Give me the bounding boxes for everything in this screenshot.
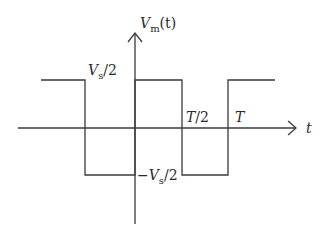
square-wave-diagram: Vm(t) t Vs/2 −Vs/2 T/2 T (0, 0, 332, 231)
y-axis-label: Vm(t) (140, 15, 176, 34)
x-axis (18, 121, 296, 135)
half-period-label: T/2 (186, 109, 209, 125)
low-level-label: −Vs/2 (137, 167, 178, 186)
high-level-label: Vs/2 (88, 62, 117, 81)
x-axis-label: t (306, 120, 312, 136)
period-label: T (235, 109, 246, 125)
